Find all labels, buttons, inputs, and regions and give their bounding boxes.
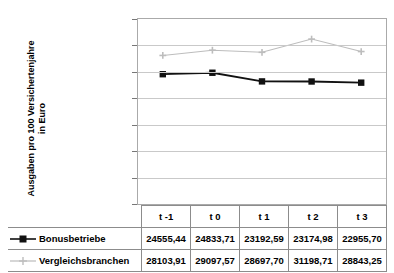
value-vergleichsbranchen-0: 28103,91 [142, 250, 191, 272]
legend-label-bonusbetriebe: Bonusbetriebe [39, 233, 106, 244]
gridline [138, 72, 386, 73]
legend-marker-square-icon [10, 234, 36, 244]
category-header-0: t -1 [142, 206, 191, 228]
data-point-marker [358, 48, 365, 55]
gridline [138, 98, 386, 99]
value-vergleichsbranchen-3: 31198,71 [289, 250, 338, 272]
legend-label-vergleichsbranchen: Vergleichsbranchen [39, 255, 129, 266]
table-row-categories: t -1 t 0 t 1 t 2 t 3 [8, 206, 387, 228]
table-corner-cell [8, 206, 142, 228]
value-bonusbetriebe-0: 24555,44 [142, 228, 191, 250]
gridline [138, 151, 386, 152]
legend-item-vergleichsbranchen: Vergleichsbranchen [8, 250, 142, 272]
category-header-1: t 0 [191, 206, 240, 228]
category-header-2: t 1 [240, 206, 289, 228]
value-bonusbetriebe-2: 23192,59 [240, 228, 289, 250]
legend-item-bonusbetriebe: Bonusbetriebe [8, 228, 142, 250]
data-point-marker [308, 78, 314, 84]
value-vergleichsbranchen-4: 28843,25 [337, 250, 386, 272]
legend-marker-plus-icon [10, 256, 36, 266]
category-header-3: t 2 [289, 206, 338, 228]
value-bonusbetriebe-3: 23174,98 [289, 228, 338, 250]
data-table: t -1 t 0 t 1 t 2 t 3 Bonusbetriebe 24555 [8, 205, 387, 272]
gridline [138, 178, 386, 179]
data-point-marker [159, 52, 166, 59]
gridline [138, 125, 386, 126]
table-row-vergleichsbranchen: Vergleichsbranchen 28103,91 29097,57 286… [8, 250, 387, 272]
gridline [138, 45, 386, 46]
chart-figure: Ausgaben pro 100 Versichertenjahre in Eu… [0, 0, 394, 273]
data-point-marker [209, 47, 216, 54]
table-row-bonusbetriebe: Bonusbetriebe 24555,44 24833,71 23192,59… [8, 228, 387, 250]
data-point-marker [358, 79, 364, 85]
data-point-marker [308, 36, 315, 43]
value-vergleichsbranchen-2: 28697,70 [240, 250, 289, 272]
data-point-marker [259, 49, 266, 56]
plot-area [137, 18, 387, 205]
series-layer [138, 19, 386, 204]
data-point-marker [259, 78, 265, 84]
value-bonusbetriebe-1: 24833,71 [191, 228, 240, 250]
category-header-4: t 3 [337, 206, 386, 228]
value-vergleichsbranchen-1: 29097,57 [191, 250, 240, 272]
value-bonusbetriebe-4: 22955,70 [337, 228, 386, 250]
